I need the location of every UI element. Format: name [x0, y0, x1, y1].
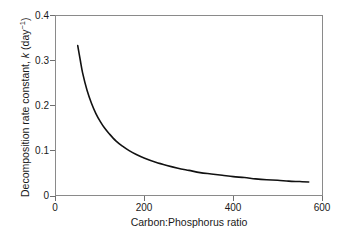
- decomposition-rate-curve: [56, 16, 322, 195]
- x-tick-label-0: 0: [35, 203, 75, 213]
- x-tick-mark-600: [322, 196, 323, 201]
- y-axis-title-units-close: ): [19, 17, 31, 21]
- y-axis-title: Decomposition rate constant, k (day−1): [17, 7, 32, 207]
- plot-area: [55, 15, 323, 196]
- x-axis-title: Carbon:Phosphorus ratio: [55, 217, 323, 228]
- x-tick-label-200: 200: [124, 203, 164, 213]
- y-axis-title-units-open: (day: [19, 30, 31, 53]
- y-axis-title-units-exponent: −1: [18, 21, 27, 30]
- y-axis-title-symbol: k: [19, 53, 31, 58]
- x-tick-label-400: 400: [213, 203, 253, 213]
- curve-path: [78, 46, 309, 182]
- x-tick-mark-400: [233, 196, 234, 201]
- y-axis-title-prefix: Decomposition rate constant,: [19, 58, 31, 197]
- figure-decomposition-rate-vs-cp-ratio: 0.4 0.3 0.2 0.1 0 0 200 400 600 Carbon:P…: [0, 0, 349, 235]
- x-tick-mark-0: [55, 196, 56, 201]
- x-tick-label-600: 600: [302, 203, 342, 213]
- x-tick-mark-200: [144, 196, 145, 201]
